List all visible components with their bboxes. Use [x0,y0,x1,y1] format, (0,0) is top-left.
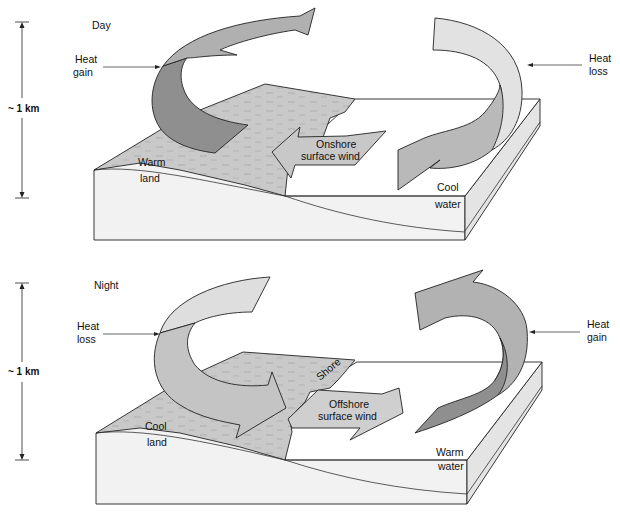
panel-title: Night [94,279,119,291]
scale-bar-day: ~ 1 km [8,22,40,198]
svg-text:gain: gain [73,66,93,78]
water-label-line1: Warm [436,446,464,458]
night-panel: ~ 1 km Night Offshore surface wind [8,270,609,504]
arrowhead-up-icon [20,22,25,28]
wind-label-line2: surface wind [301,150,360,162]
land-label-line2: land [140,172,160,184]
arrowhead-up-icon [20,283,25,289]
water-label-line2: water [437,460,464,472]
panel-title: Day [92,19,111,31]
callout-left-night: Heat loss [77,320,160,345]
water-label-line1: Cool [437,181,459,193]
sea-land-breeze-diagram: ~ 1 km Day [0,0,620,518]
water-label-line2: water [434,198,461,210]
scale-label: ~ 1 km [8,103,40,114]
svg-text:loss: loss [589,65,608,77]
arrowhead-down-icon [20,454,25,460]
svg-text:Heat: Heat [587,318,609,330]
svg-text:loss: loss [77,333,96,345]
wind-label-line1: Offshore [329,398,369,410]
arrowhead-down-icon [20,192,25,198]
wind-label-line2: surface wind [318,410,377,422]
svg-text:Heat: Heat [75,53,97,65]
callout-right-day: Heat loss [527,52,611,77]
land-label-line2: land [147,436,167,448]
svg-text:Heat: Heat [589,52,611,64]
svg-text:Heat: Heat [77,320,99,332]
svg-text:gain: gain [587,331,607,343]
wind-label-line1: Onshore [316,138,356,150]
callout-right-night: Heat gain [529,318,609,343]
scale-label: ~ 1 km [8,366,40,377]
day-panel: ~ 1 km Day [8,8,611,240]
land-label-line1: Cool [145,420,167,432]
land-label-line1: Warm [138,156,166,168]
callout-left-day: Heat gain [73,53,161,78]
scale-bar-night: ~ 1 km [8,283,40,460]
